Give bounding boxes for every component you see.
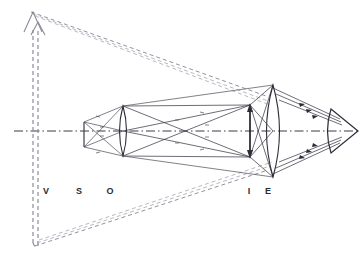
label-o: O (106, 186, 113, 196)
label-s: S (76, 186, 82, 196)
ray-exit-l2 (276, 140, 341, 168)
ray-eyep-5 (250, 131, 273, 157)
virtual-extension-ray-1 (31, 12, 266, 96)
ray-eyep-7 (123, 85, 273, 106)
label-i: I (248, 186, 251, 196)
diagram-labels: V S O I E (43, 186, 271, 196)
ray-exit-u3 (279, 100, 342, 125)
virtual-image-arrow (24, 12, 45, 247)
ray-img-2 (123, 131, 250, 157)
ray-obj-top-1 (84, 106, 123, 122)
ray-exit-u2 (276, 94, 341, 122)
label-e: E (265, 186, 271, 196)
ray-tick-b (96, 152, 100, 153)
ray-img-5 (123, 105, 250, 131)
ray-img-3 (123, 156, 250, 157)
label-v: V (43, 186, 49, 196)
virtual-extension-ray-6 (39, 162, 272, 240)
virtual-extension-ray-3 (35, 16, 270, 105)
ray-eyep-4 (250, 85, 273, 157)
ray-exit-u-arrow-3 (312, 115, 318, 119)
virtual-extension-ray-4 (35, 170, 268, 246)
virtual-extension-ray-2 (33, 14, 268, 101)
virtual-extension-rays-upper (31, 12, 270, 105)
rays-eyepiece-to-eye-lower (273, 137, 342, 174)
virtual-extension-ray-5 (37, 166, 270, 243)
ray-exit-l3 (279, 137, 342, 162)
virtual-extension-rays-lower (35, 162, 272, 246)
microscope-ray-diagram: V S O I E (0, 0, 364, 261)
rays-eyepiece-to-eye-upper (273, 88, 342, 125)
ray-diagram-canvas: V S O I E (0, 0, 364, 261)
ray-eyep-2 (250, 105, 273, 131)
ray-exit-l-arrow-3 (312, 143, 318, 147)
ray-obj-bot-1 (84, 106, 123, 147)
ray-img-6 (123, 105, 250, 106)
ray-eyep-8 (123, 156, 273, 177)
ray-obj-bot-2 (84, 131, 123, 147)
ray-obj-bot-3 (84, 147, 123, 156)
ray-tick-f (200, 149, 204, 150)
ray-eyep-3 (250, 105, 273, 177)
ray-tick-e (200, 112, 204, 113)
